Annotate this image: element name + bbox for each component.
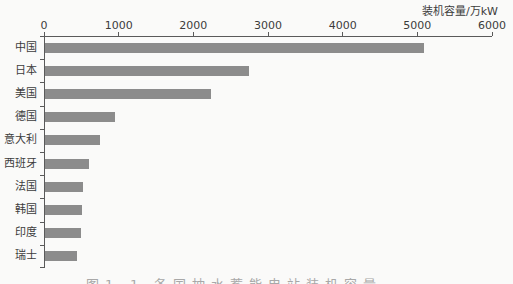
bar-韩国 <box>45 205 82 215</box>
x-tick-mark <box>492 32 493 36</box>
figure-caption-cropped: 图1-1 各国抽水蓄能电站装机容量 <box>86 277 446 284</box>
x-tick-label: 3000 <box>248 20 288 31</box>
x-tick-mark <box>193 32 194 36</box>
y-minor-tick <box>40 245 44 246</box>
category-label: 德国 <box>0 110 37 124</box>
category-label: 西班牙 <box>0 157 37 171</box>
y-minor-tick <box>40 36 44 37</box>
y-minor-tick <box>40 59 44 60</box>
category-label: 印度 <box>0 226 37 240</box>
y-minor-tick <box>40 82 44 83</box>
category-label: 韩国 <box>0 203 37 217</box>
y-minor-tick <box>40 152 44 153</box>
x-tick-label: 1000 <box>99 20 139 31</box>
x-axis-line <box>44 36 492 37</box>
x-tick-label: 6000 <box>472 20 512 31</box>
bar-法国 <box>45 182 83 192</box>
x-axis-title: 装机容量/万kW <box>422 5 498 18</box>
x-tick-label: 0 <box>24 20 64 31</box>
bar-中国 <box>45 43 424 53</box>
bar-美国 <box>45 89 211 99</box>
y-minor-tick <box>40 222 44 223</box>
y-minor-tick <box>40 129 44 130</box>
y-minor-tick <box>40 175 44 176</box>
bar-日本 <box>45 66 249 76</box>
x-tick-label: 5000 <box>397 20 437 31</box>
scanned-bar-chart-page: 装机容量/万kW 0100020003000400050006000 中国日本美… <box>0 0 513 284</box>
category-label: 法国 <box>0 180 37 194</box>
bar-chart-plot: 0100020003000400050006000 中国日本美国德国意大利西班牙… <box>44 36 492 268</box>
y-minor-tick <box>40 198 44 199</box>
x-tick-mark <box>268 32 269 36</box>
x-tick-mark <box>118 32 119 36</box>
bar-西班牙 <box>45 159 89 169</box>
bar-意大利 <box>45 135 100 145</box>
y-minor-tick <box>40 267 44 268</box>
x-tick-mark <box>417 32 418 36</box>
bar-瑞士 <box>45 251 77 261</box>
x-tick-label: 4000 <box>323 20 363 31</box>
category-label: 美国 <box>0 87 37 101</box>
x-tick-mark <box>342 32 343 36</box>
bar-德国 <box>45 112 115 122</box>
x-tick-label: 2000 <box>173 20 213 31</box>
category-label: 意大利 <box>0 133 37 147</box>
category-label: 瑞士 <box>0 249 37 263</box>
bar-印度 <box>45 228 81 238</box>
category-label: 日本 <box>0 64 37 78</box>
category-label: 中国 <box>0 41 37 55</box>
y-minor-tick <box>40 106 44 107</box>
